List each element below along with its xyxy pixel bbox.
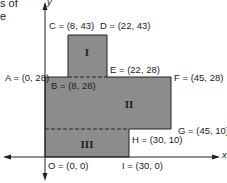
- y-axis-arrow-down-icon: [43, 173, 48, 181]
- y-axis-label: y: [46, 0, 53, 7]
- point-label-O: O = (0, 0): [48, 160, 88, 171]
- point-label-E: E = (22, 28): [110, 64, 160, 75]
- point-label-F: F = (45, 28): [174, 72, 223, 83]
- point-label-H: H = (30, 10): [132, 134, 182, 145]
- point-label-A: A = (0, 28): [5, 72, 49, 83]
- region-label-I: I: [85, 46, 89, 58]
- x-axis-arrow-left-icon: [3, 155, 11, 160]
- region-label-II: II: [125, 98, 134, 110]
- point-label-C: C = (8, 43): [49, 20, 94, 31]
- coordinate-diagram: x y I II III C = (8, 43) D = (22, 43) E …: [0, 0, 227, 183]
- x-axis-arrow-right-icon: [212, 155, 220, 160]
- point-label-B: B = (8, 28): [51, 80, 96, 91]
- point-label-G: G = (45, 10): [178, 125, 227, 136]
- point-label-D: D = (22, 43): [100, 20, 150, 31]
- region-label-III: III: [81, 138, 94, 150]
- point-label-I: I = (30, 0): [122, 160, 163, 171]
- x-axis-label: x: [221, 149, 227, 160]
